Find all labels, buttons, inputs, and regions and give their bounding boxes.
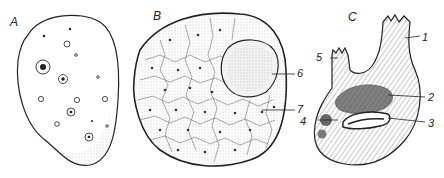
callout-6: 6 (297, 68, 303, 79)
panel-label-c: C (348, 11, 357, 23)
panel-a-cell (17, 15, 118, 165)
callout-5: 5 (316, 52, 322, 63)
callout-1: 1 (422, 32, 428, 43)
callout-7: 7 (297, 104, 303, 115)
callout-4: 4 (300, 116, 306, 127)
panel-label-a: A (10, 16, 18, 28)
panel-c-organism (314, 15, 420, 165)
panel-b-body (134, 13, 287, 166)
callout-2: 2 (428, 92, 434, 103)
panel-label-b: B (153, 10, 161, 22)
figure-canvas (0, 0, 444, 178)
callout-3: 3 (428, 118, 434, 129)
